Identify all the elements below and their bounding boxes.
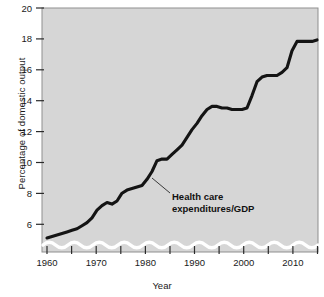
x-tick-label-1960: 1960 <box>36 257 57 268</box>
plot-area-background <box>42 8 318 252</box>
x-tick-label-1990: 1990 <box>184 257 205 268</box>
y-tick-label-6: 6 <box>27 219 32 230</box>
x-tick-label-2000: 2000 <box>233 257 254 268</box>
annotation-line-1: Health care <box>172 191 254 203</box>
y-tick-label-8: 8 <box>27 188 32 199</box>
x-tick-label-1970: 1970 <box>86 257 107 268</box>
annotation-line-2: expenditures/GDP <box>172 203 254 215</box>
x-tick-label-1980: 1980 <box>135 257 156 268</box>
series-annotation-label: Health care expenditures/GDP <box>172 191 254 214</box>
x-axis-title: Year <box>0 280 324 291</box>
x-tick-label-2010: 2010 <box>282 257 303 268</box>
y-axis-title: Percentage of domestic output <box>16 19 27 229</box>
chart-canvas: 20 18 16 14 12 10 8 6 <box>0 0 324 297</box>
health-care-gdp-chart-figure: 20 18 16 14 12 10 8 6 <box>0 0 324 297</box>
y-tick-label-20: 20 <box>21 3 32 14</box>
x-axis-tick-labels: 1960 1970 1980 1990 2000 2010 <box>36 257 303 268</box>
